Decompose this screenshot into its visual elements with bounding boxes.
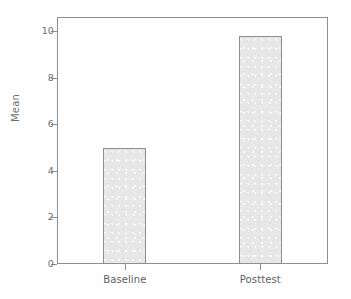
x-tick-label-baseline: Baseline bbox=[65, 274, 185, 285]
y-tick-label: 4 bbox=[14, 166, 54, 176]
x-tick-label-posttest: Posttest bbox=[200, 274, 320, 285]
y-tick-label: 10 bbox=[14, 26, 54, 36]
plot-area-frame bbox=[57, 17, 328, 264]
y-tick-label: 0 bbox=[14, 259, 54, 269]
x-tick-mark bbox=[260, 264, 261, 270]
bar-chart: 0 2 4 6 8 10 Mean Baseline Posttest bbox=[0, 0, 351, 299]
y-tick-label: 2 bbox=[14, 212, 54, 222]
y-axis-title: Mean bbox=[10, 94, 21, 122]
y-tick-label: 8 bbox=[14, 73, 54, 83]
x-tick-mark bbox=[125, 264, 126, 270]
